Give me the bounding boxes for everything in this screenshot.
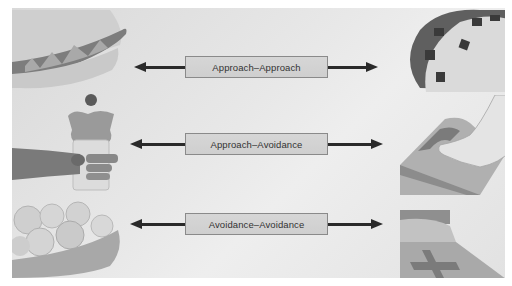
conflict-row-approach-approach: Approach–Approach	[0, 56, 512, 78]
arrow-line-left	[140, 223, 185, 226]
arrow-line-right	[328, 66, 368, 69]
arrow-right-icon	[366, 62, 378, 72]
arrow-line-right	[328, 223, 373, 226]
conflict-row-avoidance-avoidance: Avoidance–Avoidance	[0, 213, 512, 235]
taco-illustration	[380, 8, 505, 100]
arrow-right-icon	[371, 219, 383, 229]
arrow-right-icon	[371, 139, 383, 149]
hamburger-illustration	[12, 8, 140, 100]
arrow-line-left	[144, 66, 185, 69]
conflict-label-box: Approach–Approach	[185, 56, 328, 78]
conflict-label-box: Avoidance–Avoidance	[185, 213, 328, 235]
arrow-line-left	[140, 143, 185, 146]
conflict-row-approach-avoidance: Approach–Avoidance	[0, 133, 512, 155]
conflict-label-box: Approach–Avoidance	[185, 133, 328, 155]
arrow-line-right	[328, 143, 373, 146]
